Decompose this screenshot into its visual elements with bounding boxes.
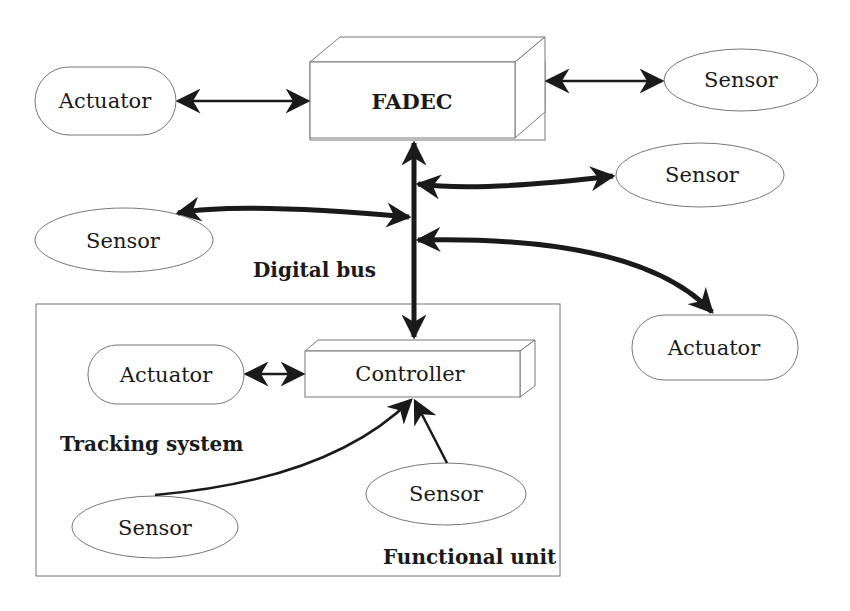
actuator-right-label: Actuator bbox=[668, 336, 761, 360]
edge-sensor-mid-left-bus bbox=[178, 208, 409, 217]
sensor-top-right-label: Sensor bbox=[704, 68, 778, 92]
edge-sensor-right-controller bbox=[415, 401, 447, 463]
sensor-inner-left-label: Sensor bbox=[118, 516, 192, 540]
actuator-top-label: Actuator bbox=[59, 89, 152, 113]
fadec-label: FADEC bbox=[372, 89, 453, 114]
controller-label: Controller bbox=[355, 362, 464, 386]
digital-bus-label: Digital bus bbox=[253, 258, 376, 282]
edge-bus-sensor-mid-right bbox=[418, 176, 613, 187]
tracking-system-label: Tracking system bbox=[60, 432, 243, 456]
sensor-mid-left-label: Sensor bbox=[86, 229, 160, 253]
edge-bus-actuator-right bbox=[418, 240, 712, 312]
functional-unit-label: Functional unit bbox=[383, 545, 556, 569]
sensor-mid-right-label: Sensor bbox=[665, 163, 739, 187]
actuator-inner-label: Actuator bbox=[120, 363, 213, 387]
sensor-inner-right-label: Sensor bbox=[409, 482, 483, 506]
